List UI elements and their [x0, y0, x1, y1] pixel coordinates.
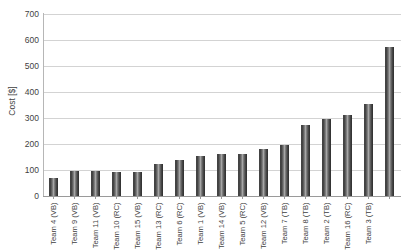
x-label-slot: Team 1 (VB): [190, 200, 211, 251]
x-tick-mark: [158, 196, 159, 199]
x-tick-label: Team 12 (VB): [259, 203, 268, 251]
x-label-slot: Team 8 (TB): [295, 200, 316, 251]
bar-slot: [274, 14, 295, 196]
x-tick-label: Team 15 (VB): [133, 203, 142, 251]
bar[interactable]: [112, 172, 121, 196]
bar[interactable]: [385, 47, 394, 197]
x-tick-label: Team 10 (RC): [112, 203, 121, 251]
x-label-slot: Team 10 (RC): [106, 200, 127, 251]
y-tick-label: 200: [5, 140, 39, 148]
x-tick-label: Team 5 (RC): [238, 203, 247, 251]
y-tick-label: 100: [5, 166, 39, 174]
bar[interactable]: [364, 104, 373, 196]
x-tick-mark: [95, 196, 96, 199]
x-tick-mark: [284, 196, 285, 199]
x-label-slot: Team 9 (VB): [64, 200, 85, 251]
x-tick-mark: [368, 196, 369, 199]
y-axis-tick-labels: 0100200300400500600700: [0, 0, 39, 251]
x-label-slot: Team 12 (VB): [253, 200, 274, 251]
x-label-slot: Team 14 (VB): [211, 200, 232, 251]
x-tick-mark: [179, 196, 180, 199]
x-tick-mark: [116, 196, 117, 199]
bar-slot: [43, 14, 64, 196]
x-label-slot: Team 6 (RC): [169, 200, 190, 251]
bar[interactable]: [196, 156, 205, 196]
bar-slot: [211, 14, 232, 196]
x-tick-label: Team 1 (VB): [196, 203, 205, 251]
x-label-slot: [379, 200, 400, 251]
x-label-slot: Team 4 (VB): [43, 200, 64, 251]
y-tick-label: 0: [5, 192, 39, 200]
y-tick-label: 400: [5, 88, 39, 96]
x-tick-label: Team 13 (RC): [154, 203, 163, 251]
bar[interactable]: [91, 171, 100, 196]
y-tick-label: 600: [5, 36, 39, 44]
bar[interactable]: [322, 119, 331, 196]
x-tick-label: Team 11 (VB): [91, 203, 100, 251]
x-tick-mark: [389, 196, 390, 199]
x-tick-label: Team 14 (VB): [217, 203, 226, 251]
bar[interactable]: [133, 172, 142, 196]
y-tick-label: 500: [5, 62, 39, 70]
x-label-slot: Team 3 (TB): [358, 200, 379, 251]
bar[interactable]: [49, 178, 58, 196]
x-tick-mark: [74, 196, 75, 199]
bar[interactable]: [301, 125, 310, 197]
y-tick-label: 700: [5, 10, 39, 18]
bar-slot: [295, 14, 316, 196]
x-tick-mark: [305, 196, 306, 199]
x-label-slot: Team 13 (RC): [148, 200, 169, 251]
bar[interactable]: [343, 115, 352, 196]
x-tick-mark: [242, 196, 243, 199]
bar-slot: [148, 14, 169, 196]
bar-slot: [379, 14, 400, 196]
bar-slot: [253, 14, 274, 196]
bar[interactable]: [238, 154, 247, 196]
x-tick-mark: [137, 196, 138, 199]
bar-slot: [337, 14, 358, 196]
x-label-slot: Team 7 (TB): [274, 200, 295, 251]
bar[interactable]: [154, 164, 163, 197]
x-tick-mark: [263, 196, 264, 199]
bar[interactable]: [259, 149, 268, 196]
bar-slot: [358, 14, 379, 196]
bar-slot: [316, 14, 337, 196]
bar-chart: Cost [$] 0100200300400500600700 Team 4 (…: [0, 0, 401, 251]
bar-slot: [127, 14, 148, 196]
x-tick-mark: [200, 196, 201, 199]
x-tick-mark: [347, 196, 348, 199]
bar-slot: [169, 14, 190, 196]
x-tick-mark: [53, 196, 54, 199]
bar-series: [43, 14, 401, 196]
x-label-slot: Team 2 (TB): [316, 200, 337, 251]
bar[interactable]: [175, 160, 184, 196]
bar-slot: [190, 14, 211, 196]
bar[interactable]: [217, 154, 226, 196]
bar[interactable]: [280, 145, 289, 196]
x-label-slot: Team 16 (RC): [337, 200, 358, 251]
x-axis-tick-labels: Team 4 (VB)Team 9 (VB)Team 11 (VB)Team 1…: [43, 200, 401, 251]
y-tick-label: 300: [5, 114, 39, 122]
x-tick-label: Team 4 (VB): [49, 203, 58, 251]
x-tick-mark: [326, 196, 327, 199]
x-tick-label: Team 6 (RC): [175, 203, 184, 251]
x-tick-mark: [221, 196, 222, 199]
x-tick-label: Team 3 (TB): [364, 203, 373, 251]
x-tick-label: Team 9 (VB): [70, 203, 79, 251]
x-label-slot: Team 15 (VB): [127, 200, 148, 251]
bar-slot: [64, 14, 85, 196]
bar-slot: [106, 14, 127, 196]
x-tick-label: Team 2 (TB): [322, 203, 331, 251]
x-label-slot: Team 11 (VB): [85, 200, 106, 251]
x-tick-label: Team 7 (TB): [280, 203, 289, 251]
bar-slot: [232, 14, 253, 196]
bar-slot: [85, 14, 106, 196]
x-tick-label: Team 16 (RC): [343, 203, 352, 251]
x-tick-label: Team 8 (TB): [301, 203, 310, 251]
x-label-slot: Team 5 (RC): [232, 200, 253, 251]
bar[interactable]: [70, 171, 79, 196]
